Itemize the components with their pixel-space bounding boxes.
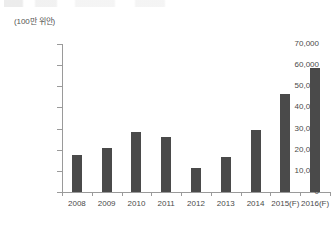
x-axis-line (62, 192, 330, 193)
y-axis-tick (57, 44, 62, 45)
x-axis-tick (92, 192, 93, 196)
bar (102, 148, 112, 192)
x-axis-tick-label: 2009 (98, 199, 116, 208)
x-axis-tick (300, 192, 301, 196)
x-axis-tick (330, 192, 331, 196)
y-axis-tick-label: 70,000 (295, 39, 319, 48)
x-axis-tick (211, 192, 212, 196)
x-axis-tick-label: 2011 (158, 199, 175, 208)
y-axis-tick (57, 129, 62, 130)
y-axis-tick (57, 107, 62, 108)
bar (161, 137, 171, 192)
bar (221, 157, 231, 192)
x-axis-tick (62, 192, 63, 196)
x-axis-tick-label: 2008 (68, 199, 86, 208)
y-axis-tick (57, 150, 62, 151)
x-axis-tick (241, 192, 242, 196)
x-axis-tick-label: 2015(F) (271, 199, 299, 208)
bar (310, 68, 320, 192)
bar (72, 155, 82, 192)
y-axis-unit-label: (100만 위안) (14, 15, 55, 26)
x-axis-tick (122, 192, 123, 196)
y-axis-tick (57, 171, 62, 172)
x-axis-tick-label: 2016(F) (301, 199, 329, 208)
x-axis-tick-label: 2013 (217, 199, 235, 208)
bar (251, 130, 261, 192)
bar (131, 132, 141, 192)
x-axis-tick-label: 2010 (128, 199, 146, 208)
plot-area: 010,00020,00030,00040,00050,00060,00070,… (62, 44, 330, 192)
x-axis-tick-label: 2014 (247, 199, 265, 208)
x-axis-tick (270, 192, 271, 196)
y-axis-tick (57, 65, 62, 66)
clipped-title-artifact (4, 0, 174, 7)
x-axis-tick (151, 192, 152, 196)
bar (191, 168, 201, 192)
x-axis-tick (181, 192, 182, 196)
x-axis-tick-label: 2012 (187, 199, 205, 208)
y-axis-tick (57, 86, 62, 87)
bar-chart: (100만 위안) 010,00020,00030,00040,00050,00… (0, 0, 334, 225)
bar (280, 94, 290, 192)
